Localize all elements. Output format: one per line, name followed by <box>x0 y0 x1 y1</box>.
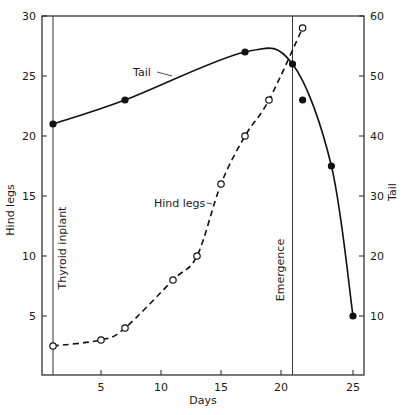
tail-leader-line <box>157 72 172 76</box>
tail-data-point <box>50 121 56 127</box>
hind-legs-leader-line <box>207 203 212 204</box>
tail-curve <box>53 48 353 316</box>
hind-legs-data-point <box>170 277 176 283</box>
tail-series-label: Tail <box>132 66 151 79</box>
hind-legs-data-point <box>122 325 128 331</box>
hind-legs-series-label: Hind legs <box>154 197 206 210</box>
y-axis-title-left: Hind legs <box>4 184 17 236</box>
hind-legs-data-point <box>98 337 104 343</box>
y-tick-label-right: 40 <box>370 130 384 143</box>
y-tick-label-right: 20 <box>370 250 384 263</box>
hind-legs-data-point <box>50 343 56 349</box>
emergence-label: Emergence <box>274 239 287 302</box>
y-axis-title-right: Tail <box>386 183 399 202</box>
y-tick-label-left: 10 <box>22 250 36 263</box>
hind-legs-data-point <box>266 97 272 103</box>
y-tick-label-left: 20 <box>22 130 36 143</box>
y-tick-label-right: 10 <box>370 310 384 323</box>
x-axis-title: Days <box>189 394 217 407</box>
y-tick-label-right: 60 <box>370 10 384 23</box>
thyroid-inplant-label: Thyroid inplant <box>56 206 69 291</box>
hind-legs-data-point <box>194 253 200 259</box>
y-tick-label-left: 5 <box>29 310 36 323</box>
y-tick-label-left: 15 <box>22 190 36 203</box>
series-layer <box>50 25 356 349</box>
hind-legs-data-point <box>299 25 305 31</box>
hind-legs-curve <box>53 28 303 346</box>
event-lines <box>53 16 293 375</box>
tail-data-point <box>300 97 306 103</box>
hind-legs-data-point <box>242 133 248 139</box>
y-tick-label-left: 30 <box>22 10 36 23</box>
y-tick-label-right: 30 <box>370 190 384 203</box>
x-tick-label: 5 <box>98 381 105 394</box>
tail-data-point <box>122 97 128 103</box>
tail-data-point <box>350 313 356 319</box>
chart: 51015202551015202530102030405060 Days Hi… <box>0 0 404 415</box>
tail-data-point <box>290 61 296 67</box>
x-tick-label: 10 <box>154 381 168 394</box>
tail-data-point <box>242 49 248 55</box>
tail-data-point <box>328 163 334 169</box>
plot-frame <box>42 16 364 375</box>
y-tick-label-right: 50 <box>370 70 384 83</box>
x-tick-label: 20 <box>274 381 288 394</box>
y-tick-label-left: 25 <box>22 70 36 83</box>
x-tick-label: 15 <box>214 381 228 394</box>
x-tick-label: 25 <box>346 381 360 394</box>
hind-legs-data-point <box>218 181 224 187</box>
